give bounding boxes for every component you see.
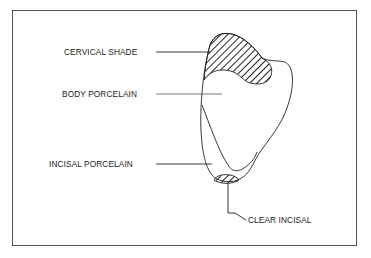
clear-incisal-region bbox=[214, 175, 239, 184]
tooth-diagram bbox=[0, 0, 371, 258]
clear-incisal-leader bbox=[228, 184, 246, 220]
label-clear-incisal: CLEAR INCISAL bbox=[248, 215, 312, 225]
label-incisal-porcelain: INCISAL PORCELAIN bbox=[49, 159, 133, 169]
label-cervical-shade: CERVICAL SHADE bbox=[64, 47, 137, 57]
incisal-porcelain-boundary bbox=[202, 105, 257, 171]
cervical-shade-region bbox=[204, 33, 272, 84]
label-body-porcelain: BODY PORCELAIN bbox=[62, 89, 137, 99]
